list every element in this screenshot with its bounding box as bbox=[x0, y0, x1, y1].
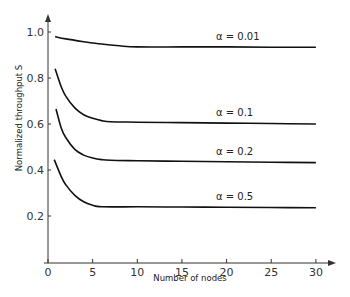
x-tick-label: 5 bbox=[89, 266, 96, 279]
y-tick-label: 0.4 bbox=[27, 164, 45, 177]
x-tick-label: 10 bbox=[130, 266, 144, 279]
series-line bbox=[55, 37, 316, 48]
series-group: α = 0.01α = 0.1α = 0.2α = 0.5 bbox=[54, 31, 316, 208]
y-tick-label: 0.2 bbox=[27, 210, 45, 223]
x-tick-label: 30 bbox=[309, 266, 323, 279]
series-line bbox=[55, 69, 316, 124]
series-line bbox=[56, 109, 316, 163]
x-axis-title: Number of nodes bbox=[153, 273, 227, 283]
y-axis-arrow-icon bbox=[45, 14, 51, 22]
series-label: α = 0.01 bbox=[216, 31, 260, 42]
series-label: α = 0.2 bbox=[216, 146, 253, 157]
y-ticks: 0.20.40.60.81.0 bbox=[27, 26, 52, 223]
y-tick-label: 0.8 bbox=[27, 72, 45, 85]
axes bbox=[44, 14, 336, 266]
x-axis-arrow-icon bbox=[328, 260, 336, 266]
y-tick-label: 0.6 bbox=[27, 118, 45, 131]
throughput-chart: 051015202530 0.20.40.60.81.0 Number of n… bbox=[0, 0, 350, 297]
x-tick-label: 25 bbox=[264, 266, 278, 279]
y-tick-label: 1.0 bbox=[27, 26, 45, 39]
y-axis-title: Normalized throughput S bbox=[14, 65, 24, 172]
series-line bbox=[54, 160, 316, 208]
series-label: α = 0.5 bbox=[216, 191, 253, 202]
x-tick-label: 0 bbox=[45, 266, 52, 279]
series-label: α = 0.1 bbox=[216, 107, 253, 118]
